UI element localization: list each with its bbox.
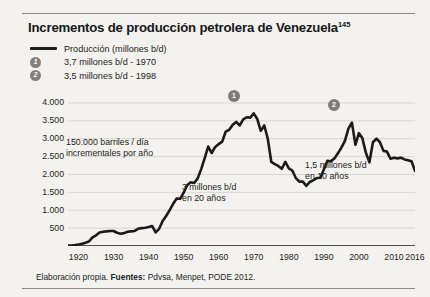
x-axis-labels: 1920193019401950196019701980199020002010… xyxy=(60,252,420,266)
y-axis-tick-label: 1.000 xyxy=(42,205,64,215)
annotation-line: 150.000 barriles / día xyxy=(66,137,153,148)
annotation-line: 3 millones b/d xyxy=(182,182,236,193)
chart-figure: Incrementos de producción petrolera de V… xyxy=(0,0,430,297)
title-text: Incrementos de producción petrolera de V… xyxy=(28,20,338,35)
annotation-line: 1,5 millones b/d xyxy=(305,160,367,171)
source-note: Elaboración propia. Fuentes: Pdvsa, Menp… xyxy=(36,272,255,282)
legend-badge-swatch: 1 xyxy=(30,57,64,68)
divider-top xyxy=(22,13,415,14)
y-axis-tick-label: 500 xyxy=(50,223,65,233)
footnote-marker: 145 xyxy=(338,20,351,29)
legend-label: Producción (millones b/d) xyxy=(64,44,167,54)
y-axis-tick-label: 2.000 xyxy=(42,169,64,179)
x-axis-tick-label: 1970 xyxy=(244,252,263,262)
chart-legend: Producción (millones b/d) 1 3,7 millones… xyxy=(30,42,280,83)
annotation-line: incrementales por año xyxy=(66,148,153,159)
x-axis-tick-label: 1920 xyxy=(69,252,88,262)
legend-item-production: Producción (millones b/d) xyxy=(30,42,280,56)
annotation-incremento-anual: 150.000 barriles / díaincrementales por … xyxy=(66,137,153,158)
y-axis-tick-label: 3.000 xyxy=(42,133,64,143)
source-prefix: Elaboración propia. xyxy=(36,272,108,282)
legend-label: 3,5 millones b/d - 1998 xyxy=(64,71,156,81)
source-label: Fuentes: xyxy=(111,272,146,282)
x-axis-tick-label: 1940 xyxy=(139,252,158,262)
divider-bottom xyxy=(22,288,415,289)
y-axis-tick-label: 4.000 xyxy=(42,97,64,107)
y-axis-tick-label: 3.500 xyxy=(42,115,64,125)
badge-number: 2 xyxy=(30,70,41,81)
x-axis-tick-label: 2010 xyxy=(384,252,403,262)
y-axis-tick-label: 1.500 xyxy=(42,187,64,197)
x-axis-tick-label: 1930 xyxy=(104,252,123,262)
legend-label: 3,7 millones b/d - 1970 xyxy=(64,57,156,67)
legend-line-swatch xyxy=(30,47,64,50)
annotation-1-5-millones: 1,5 millones b/den 10 años xyxy=(305,160,367,181)
annotation-3-millones: 3 millones b/den 20 años xyxy=(182,182,236,203)
x-axis-tick-label: 1950 xyxy=(174,252,193,262)
y-axis-tick-label: 2.500 xyxy=(42,151,64,161)
x-axis-tick-label: 1960 xyxy=(209,252,228,262)
legend-badge-swatch: 2 xyxy=(30,70,64,81)
x-axis-tick-label: 1990 xyxy=(314,252,333,262)
legend-item-marker-2: 2 3,5 millones b/d - 1998 xyxy=(30,69,280,83)
page-title: Incrementos de producción petrolera de V… xyxy=(28,20,350,35)
data-point-badge-1998: 2 xyxy=(328,99,340,111)
x-axis-tick-label: 1980 xyxy=(279,252,298,262)
x-axis-tick-label: 2000 xyxy=(349,252,368,262)
legend-item-marker-1: 1 3,7 millones b/d - 1970 xyxy=(30,56,280,70)
annotation-line: en 20 años xyxy=(182,193,236,204)
badge-number: 1 xyxy=(30,57,41,68)
data-point-badge-1970: 1 xyxy=(228,90,240,102)
annotation-line: en 10 años xyxy=(305,171,367,182)
x-axis-tick-label: 2016 xyxy=(405,252,424,262)
source-text: Pdvsa, Menpet, PODE 2012. xyxy=(148,272,256,282)
